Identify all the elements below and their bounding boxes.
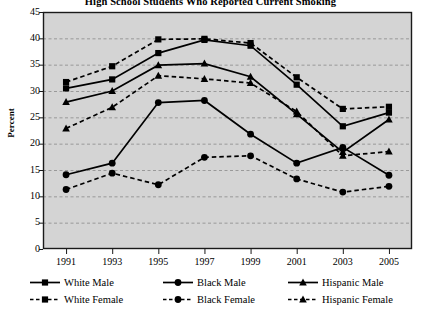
legend-item-white-female[interactable]: White Female [30, 294, 123, 305]
data-point-marker-circle [63, 171, 70, 178]
data-point-marker-circle [386, 172, 393, 179]
legend-item-white-male[interactable]: White Male [30, 277, 114, 288]
data-point-marker-circle [247, 152, 254, 159]
legend-row: White FemaleBlack FemaleHispanic Female [30, 294, 400, 309]
data-point-marker-circle [201, 154, 208, 161]
data-point-marker-square [63, 85, 69, 91]
plot-background [43, 12, 412, 249]
data-point-marker-circle [109, 170, 116, 177]
data-point-marker-square [155, 50, 161, 56]
legend-marker-triangle-icon [288, 294, 318, 305]
chart-figure: High School Students Who Reported Curren… [0, 0, 421, 316]
data-point-marker-square [386, 104, 392, 110]
legend-marker-circle-icon [163, 294, 193, 305]
legend-label: White Male [64, 277, 114, 288]
data-point-marker-square [386, 109, 392, 115]
data-point-marker-circle [339, 189, 346, 196]
data-point-marker-square [155, 36, 161, 42]
plot-area [0, 0, 421, 316]
data-point-marker-circle [293, 176, 300, 183]
legend-row: White MaleBlack MaleHispanic Male [30, 277, 400, 292]
data-point-marker-square [247, 40, 253, 46]
legend-label: Black Male [197, 277, 246, 288]
legend-marker-square-icon [30, 294, 60, 305]
data-point-marker-circle [109, 160, 116, 167]
data-point-marker-square [109, 63, 115, 69]
data-point-marker-square [340, 106, 346, 112]
legend-label: Black Female [197, 294, 255, 305]
data-point-marker-square [109, 76, 115, 82]
data-point-marker-square [63, 79, 69, 85]
data-point-marker-circle [293, 160, 300, 167]
legend-marker-circle-icon [163, 277, 193, 288]
legend-label: Hispanic Male [322, 277, 384, 288]
legend-marker-triangle-icon [288, 277, 318, 288]
data-point-marker-circle [155, 99, 162, 106]
data-point-marker-square [294, 82, 300, 88]
data-point-marker-square [42, 279, 48, 285]
legend-marker-square-icon [30, 277, 60, 288]
data-point-marker-square [340, 123, 346, 129]
legend-label: White Female [64, 294, 123, 305]
data-point-marker-circle [247, 131, 254, 138]
legend-item-hispanic-male[interactable]: Hispanic Male [288, 277, 384, 288]
data-point-marker-square [294, 74, 300, 80]
data-point-marker-circle [386, 183, 393, 190]
data-point-marker-square [42, 296, 48, 302]
data-point-marker-circle [155, 181, 162, 188]
data-point-marker-square [201, 36, 207, 42]
legend-item-black-female[interactable]: Black Female [163, 294, 255, 305]
plot-svg [0, 0, 421, 316]
chart-legend: White MaleBlack MaleHispanic MaleWhite F… [30, 277, 400, 311]
data-point-marker-circle [63, 186, 70, 193]
data-point-marker-circle [175, 296, 182, 303]
legend-item-black-male[interactable]: Black Male [163, 277, 246, 288]
legend-item-hispanic-female[interactable]: Hispanic Female [288, 294, 393, 305]
data-point-marker-circle [175, 279, 182, 286]
data-point-marker-circle [201, 97, 208, 104]
legend-label: Hispanic Female [322, 294, 393, 305]
